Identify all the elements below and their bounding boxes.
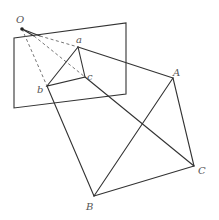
label-c: c <box>87 71 93 82</box>
line-b-B <box>47 86 94 196</box>
projection-diagram: O a b c A B C <box>0 0 219 220</box>
label-B: B <box>85 201 93 212</box>
label-C: C <box>198 165 206 176</box>
triangle-abc <box>47 47 85 86</box>
ray-O-a-dashed <box>40 36 78 47</box>
label-b: b <box>37 84 43 95</box>
edge-C-A <box>173 78 194 166</box>
label-a: a <box>76 34 82 45</box>
line-c-C <box>85 77 194 166</box>
edge-A-B <box>94 78 173 196</box>
label-O: O <box>16 14 24 25</box>
center-point-O <box>20 27 24 31</box>
ray-O-b-dashed <box>22 29 47 86</box>
label-A: A <box>172 67 180 78</box>
edge-B-C <box>94 166 194 196</box>
